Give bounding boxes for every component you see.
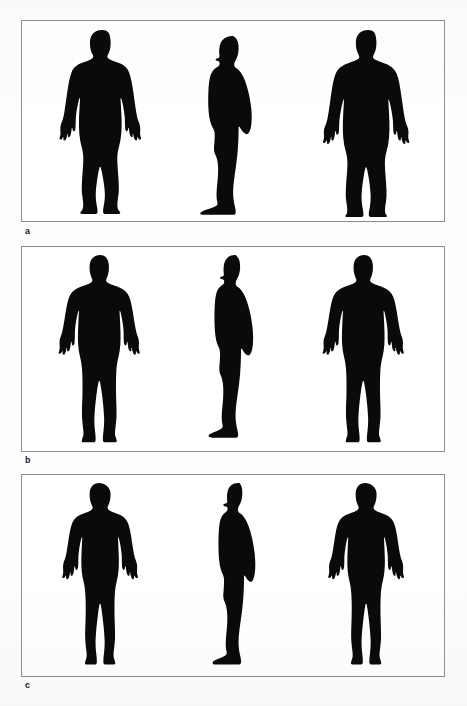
figure-a-rear [318, 27, 418, 217]
panel-b [21, 246, 445, 452]
figure-a-side [198, 34, 264, 217]
figure-c-rear [322, 481, 408, 671]
figure-b-front [54, 253, 146, 446]
figure-page: a b [0, 0, 467, 706]
figure-row-c [22, 475, 444, 676]
figure-b-side [208, 253, 260, 446]
figure-a-front [54, 27, 150, 217]
panel-b-label: b [25, 456, 31, 465]
figure-c-side [212, 481, 262, 671]
panel-a-label: a [25, 227, 30, 236]
panel-a [21, 20, 445, 222]
panel-c [21, 474, 445, 677]
figure-b-rear [318, 253, 410, 446]
figure-row-a [22, 21, 444, 221]
panel-c-label: c [25, 681, 30, 690]
figure-row-b [22, 247, 444, 451]
figure-c-front [56, 481, 142, 671]
